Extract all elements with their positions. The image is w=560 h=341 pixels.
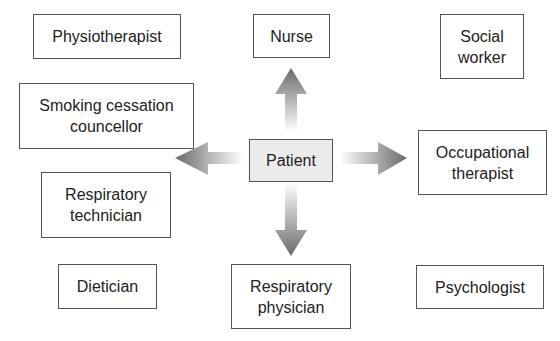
node-dietician: Dietician (58, 264, 157, 309)
arrow-up-icon (275, 68, 307, 132)
node-respiratory-physician: Respiratory physician (231, 264, 351, 329)
node-physiotherapist: Physiotherapist (33, 14, 181, 59)
arrow-right-icon (340, 142, 407, 175)
node-nurse: Nurse (253, 14, 330, 58)
node-respiratory-technician: Respiratory technician (41, 172, 171, 238)
arrow-down-icon (275, 183, 307, 256)
node-social-worker: Social worker (440, 14, 524, 79)
node-occupational-therapist: Occupational therapist (418, 130, 547, 195)
node-psychologist: Psychologist (416, 265, 544, 309)
node-smoking-cessation-councellor: Smoking cessation councellor (19, 83, 194, 149)
node-patient: Patient (249, 139, 333, 182)
